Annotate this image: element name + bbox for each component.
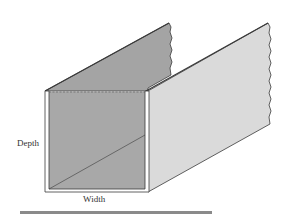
depth-label: Depth bbox=[17, 138, 39, 148]
inner-face bbox=[48, 92, 146, 189]
open-channel-diagram: Depth Width bbox=[0, 0, 291, 216]
width-label: Width bbox=[83, 194, 106, 204]
bottom-rule bbox=[20, 211, 212, 214]
